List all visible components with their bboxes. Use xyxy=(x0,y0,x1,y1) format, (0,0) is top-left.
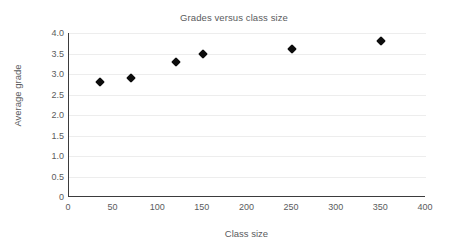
x-tick-label: 50 xyxy=(108,203,118,212)
gridline xyxy=(69,136,426,137)
x-axis-title: Class size xyxy=(68,228,425,239)
data-point xyxy=(376,36,386,46)
x-tick-label: 200 xyxy=(239,203,254,212)
x-tick-label: 100 xyxy=(150,203,165,212)
gridline xyxy=(69,74,426,75)
chart-container: Grades versus class size 00.51.01.52.02.… xyxy=(0,0,468,251)
x-tick-label: 400 xyxy=(417,203,432,212)
x-tick-label: 350 xyxy=(373,203,388,212)
y-tick-label: 1.5 xyxy=(32,131,64,140)
x-tick-label: 300 xyxy=(328,203,343,212)
x-tick-label: 150 xyxy=(194,203,209,212)
gridline xyxy=(69,177,426,178)
gridline xyxy=(69,33,426,34)
y-axis-title: Average grade xyxy=(12,51,23,141)
x-tick-label: 0 xyxy=(65,203,70,212)
y-tick-label: 2.0 xyxy=(32,111,64,120)
gridline xyxy=(69,115,426,116)
y-axis-ticks: 00.51.01.52.02.53.03.54.0 xyxy=(28,33,64,197)
gridline xyxy=(69,156,426,157)
y-tick-label: 2.5 xyxy=(32,90,64,99)
gridline xyxy=(69,95,426,96)
y-tick-label: 3.0 xyxy=(32,70,64,79)
plot-area xyxy=(68,33,425,197)
y-tick-label: 0.5 xyxy=(32,172,64,181)
x-axis-ticks: 050100150200250300350400 xyxy=(68,203,425,217)
y-tick-label: 3.5 xyxy=(32,49,64,58)
y-tick-label: 0 xyxy=(32,193,64,202)
data-point xyxy=(198,49,208,59)
y-tick-label: 4.0 xyxy=(32,29,64,38)
chart-title: Grades versus class size xyxy=(0,12,468,23)
gridline xyxy=(69,54,426,55)
x-tick-label: 250 xyxy=(284,203,299,212)
data-point xyxy=(171,57,181,67)
y-tick-label: 1.0 xyxy=(32,152,64,161)
data-point xyxy=(95,77,105,87)
